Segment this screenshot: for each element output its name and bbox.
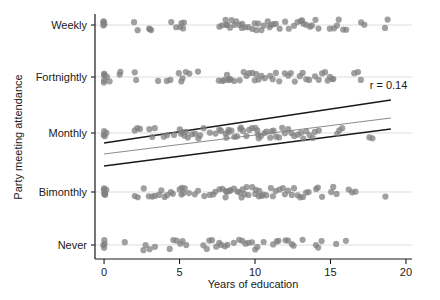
data-point — [152, 244, 158, 250]
data-point — [382, 193, 388, 199]
data-point — [343, 238, 349, 244]
data-point — [201, 193, 207, 199]
data-point — [101, 237, 107, 243]
data-point — [231, 78, 237, 84]
data-point — [262, 75, 268, 81]
data-point — [275, 238, 281, 244]
data-point — [358, 77, 364, 83]
data-point — [261, 239, 267, 245]
data-point — [148, 27, 154, 33]
data-point — [352, 189, 358, 195]
data-point — [223, 135, 229, 141]
data-point — [176, 70, 182, 76]
data-point — [133, 77, 139, 83]
data-point — [267, 135, 273, 141]
data-point — [170, 191, 176, 197]
chart-figure: WeeklyFortnightlyMonthlyBimonthlyNever 0… — [0, 0, 440, 300]
data-point — [289, 192, 295, 198]
data-point — [167, 77, 173, 83]
data-point — [291, 243, 297, 249]
data-point — [288, 70, 294, 76]
data-point — [106, 78, 112, 84]
data-point — [103, 187, 109, 193]
data-point — [300, 135, 306, 141]
data-point — [240, 128, 246, 134]
data-point — [171, 132, 177, 138]
data-point — [195, 188, 201, 194]
data-point — [306, 189, 312, 195]
data-point — [243, 133, 249, 139]
data-point — [237, 77, 243, 83]
data-point — [277, 26, 283, 32]
data-point — [197, 132, 203, 138]
data-point — [322, 69, 328, 75]
data-point — [286, 26, 292, 32]
x-tick-label-5: 5 — [176, 266, 182, 278]
data-point — [183, 242, 189, 248]
data-point — [135, 27, 141, 33]
data-point — [282, 19, 288, 25]
data-point — [276, 78, 282, 84]
x-tick-label-20: 20 — [400, 266, 412, 278]
data-point — [299, 237, 305, 243]
data-point — [315, 244, 321, 250]
correlation-annotation: r = 0.14 — [370, 79, 408, 91]
data-point — [182, 185, 188, 191]
data-point — [181, 19, 187, 25]
x-tick-label-15: 15 — [324, 266, 336, 278]
data-point — [155, 78, 161, 84]
data-point — [195, 69, 201, 75]
data-point — [355, 69, 361, 75]
data-point — [309, 22, 315, 28]
data-point — [319, 194, 325, 200]
data-point — [231, 240, 237, 246]
data-point — [201, 125, 207, 131]
data-point — [343, 27, 349, 33]
y-tick-label-monthly: Monthly — [48, 127, 87, 139]
data-point — [339, 125, 345, 131]
data-point — [300, 70, 306, 76]
data-point — [312, 17, 318, 23]
data-point — [186, 190, 192, 196]
data-point — [224, 242, 230, 248]
data-point — [276, 134, 282, 140]
data-point — [183, 129, 189, 135]
scatter-plot-canvas: WeeklyFortnightlyMonthlyBimonthlyNever 0… — [0, 0, 440, 300]
data-point — [385, 16, 391, 22]
data-point — [137, 126, 143, 132]
data-point — [369, 135, 375, 141]
data-point — [168, 19, 174, 25]
data-point — [186, 70, 192, 76]
data-point — [141, 185, 147, 191]
data-point — [333, 241, 339, 247]
data-point — [273, 21, 279, 27]
data-point — [333, 191, 339, 197]
data-point — [149, 134, 155, 140]
data-point — [254, 244, 260, 250]
data-point — [146, 126, 152, 132]
data-point — [131, 19, 137, 25]
data-point — [103, 130, 109, 136]
x-tick-label-0: 0 — [101, 266, 107, 278]
y-axis-title: Party meeting attendance — [12, 74, 24, 199]
data-point — [306, 77, 312, 83]
data-point — [228, 128, 234, 134]
data-point — [263, 192, 269, 198]
data-point — [122, 239, 128, 245]
data-point — [222, 194, 228, 200]
y-tick-label-never: Never — [58, 239, 88, 251]
data-point — [316, 77, 322, 83]
data-point — [249, 239, 255, 245]
data-point — [180, 25, 186, 31]
data-point — [382, 25, 388, 31]
data-point — [279, 125, 285, 131]
y-tick-label-bimonthly: Bimonthly — [39, 186, 88, 198]
x-tick-label-10: 10 — [249, 266, 261, 278]
data-point — [316, 127, 322, 133]
data-point — [336, 17, 342, 23]
data-point — [310, 135, 316, 141]
data-point — [167, 246, 173, 252]
data-point — [117, 69, 123, 75]
data-point — [164, 132, 170, 138]
data-point — [361, 22, 367, 28]
